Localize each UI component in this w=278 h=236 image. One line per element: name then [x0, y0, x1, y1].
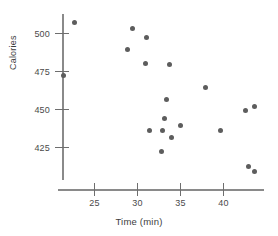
data-point — [252, 104, 257, 109]
data-point — [61, 73, 66, 78]
data-point — [252, 169, 257, 174]
data-point — [246, 164, 251, 169]
data-point — [169, 135, 174, 140]
data-point — [125, 47, 130, 52]
scatter-plot-figure: 425450475500 25303540 Calories Time (min… — [0, 0, 278, 236]
data-point — [72, 20, 77, 25]
data-point — [147, 128, 152, 133]
data-point — [144, 35, 149, 40]
data-point — [178, 123, 183, 128]
data-point — [164, 97, 169, 102]
data-point — [159, 149, 164, 154]
data-point — [162, 116, 167, 121]
data-point — [143, 61, 148, 66]
data-point — [203, 85, 208, 90]
data-point — [167, 62, 172, 67]
data-points-layer — [0, 0, 278, 236]
data-point — [160, 128, 165, 133]
data-point — [130, 26, 135, 31]
data-point — [218, 128, 223, 133]
data-point — [243, 108, 248, 113]
